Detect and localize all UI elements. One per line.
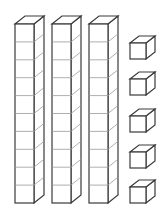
tens-rod <box>89 16 118 203</box>
tens-rod <box>52 16 81 203</box>
unit-cube <box>130 145 155 168</box>
unit-cube <box>130 72 155 95</box>
tens-rod <box>15 16 44 203</box>
unit-cube <box>130 180 155 203</box>
blocks-canvas <box>0 0 166 216</box>
base-ten-blocks-diagram <box>0 0 166 216</box>
unit-cube <box>130 109 155 132</box>
unit-cube <box>130 36 155 59</box>
